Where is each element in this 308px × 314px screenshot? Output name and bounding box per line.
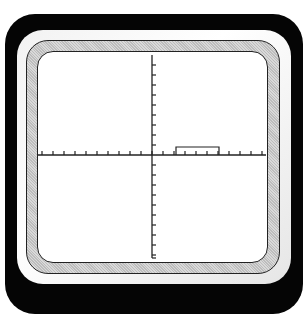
pulse-trace (176, 147, 219, 155)
pulse-waveform (176, 147, 219, 155)
